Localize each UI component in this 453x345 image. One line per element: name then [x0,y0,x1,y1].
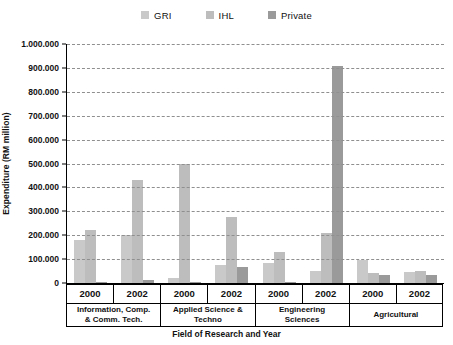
legend-item-ihl: IHL [206,10,234,21]
y-axis-ticks: 0100.000200.000300.000400.000500.000600.… [0,44,66,283]
bar-private [426,275,437,283]
bar-gri [263,263,274,283]
year-label-2002: 2002 [113,284,160,303]
y-tick-label: 100.000 [28,254,59,264]
bar-gri [168,278,179,283]
y-tick-label: 200.000 [28,230,59,240]
field-label-line: Applied Science & [173,305,243,315]
legend-swatch-ihl [206,11,214,19]
bar-gri [215,265,226,283]
gridline [67,187,444,188]
year-label-2000: 2000 [66,284,113,303]
y-tick-label: 800.000 [28,87,59,97]
bar-private [285,282,296,283]
plot-area [66,44,444,284]
bar-chart: GRIIHLPrivate Expenditure (RM million) 0… [0,0,453,345]
bar-private [379,275,390,283]
y-tick-label: 900.000 [28,63,59,73]
gridline [67,164,444,165]
legend-swatch-gri [141,11,149,19]
field-label: Information, Comp.& Comm. Tech. [66,303,160,326]
field-label: EngineeringSciences [255,303,349,326]
y-tick-label: 700.000 [28,111,59,121]
bar-private [96,282,107,283]
y-tick-label: 1.000.000 [21,39,59,49]
year-label-2002: 2002 [302,284,349,303]
legend-item-private: Private [268,10,312,21]
field-label-line: Techno [194,315,222,325]
bar-private [237,267,248,283]
gridline [67,211,444,212]
bar-private [190,282,201,283]
field-label: Applied Science &Techno [160,303,254,326]
gridline [67,68,444,69]
y-tick-label: 600.000 [28,135,59,145]
axis-row-separator [66,284,443,285]
field-label-line: Information, Comp. [77,305,150,315]
gridline [67,92,444,93]
year-label-2000: 2000 [255,284,302,303]
gridline [67,140,444,141]
field-label-line: Engineering [279,305,325,315]
field-label-line: Agricultural [373,310,418,320]
chart-legend: GRIIHLPrivate [0,6,453,24]
bar-ihl [179,164,190,284]
bar-ihl [415,271,426,283]
y-tick-label: 0 [54,278,59,288]
gridline [67,259,444,260]
bar-ihl [274,252,285,283]
bar-gri [310,271,321,283]
year-label-2002: 2002 [207,284,254,303]
axis-row-separator [66,326,443,327]
legend-swatch-private [268,11,276,19]
bar-ihl [132,180,143,283]
field-label-line: Sciences [285,315,320,325]
field-label-line: & Comm. Tech. [85,315,143,325]
bar-private [143,280,154,283]
bar-gri [404,272,415,283]
bar-ihl [226,217,237,283]
y-tick-label: 500.000 [28,159,59,169]
year-label-2000: 2000 [349,284,396,303]
legend-label-private: Private [281,10,312,21]
year-label-2000: 2000 [160,284,207,303]
x-axis-title: Field of Research and Year [0,329,453,339]
bar-private [332,66,343,283]
axis-row-separator [66,303,443,304]
gridline [67,44,444,45]
bar-gri [74,240,85,283]
year-label-2002: 2002 [396,284,443,303]
bar-ihl [85,230,96,283]
bar-ihl [368,273,379,283]
gridline [67,235,444,236]
category-axis: 20002002Information, Comp.& Comm. Tech.2… [66,284,443,326]
legend-label-ihl: IHL [219,10,234,21]
bar-ihl [321,233,332,283]
bar-gri [357,260,368,283]
legend-label-gri: GRI [154,10,172,21]
field-label: Agricultural [349,303,443,326]
y-tick-label: 400.000 [28,182,59,192]
y-tick-label: 300.000 [28,206,59,216]
gridline [67,116,444,117]
legend-item-gri: GRI [141,10,172,21]
